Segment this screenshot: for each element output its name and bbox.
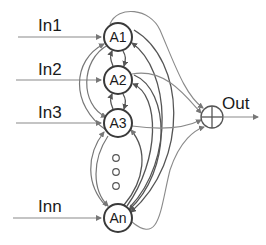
node-an: An <box>104 204 132 232</box>
rnn-diagram: In1 In2 In3 Inn A1 A2 A <box>0 0 266 245</box>
output-label: Out <box>222 94 250 113</box>
node-a2: A2 <box>104 66 132 94</box>
node-a3: A3 <box>104 109 132 137</box>
input-label-in3: In3 <box>38 103 62 122</box>
diagram-svg: In1 In2 In3 Inn A1 A2 A <box>0 0 266 245</box>
input-label-in1: In1 <box>38 16 62 35</box>
node-label-a3: A3 <box>109 115 126 131</box>
node-label-a1: A1 <box>109 29 126 45</box>
ellipsis-dots-icon <box>113 155 120 190</box>
summing-junction-icon <box>201 106 223 128</box>
input-label-inn: Inn <box>38 197 62 216</box>
node-label-an: An <box>109 210 126 226</box>
input-label-in2: In2 <box>38 60 62 79</box>
node-label-a2: A2 <box>109 72 126 88</box>
node-a1: A1 <box>104 23 132 51</box>
